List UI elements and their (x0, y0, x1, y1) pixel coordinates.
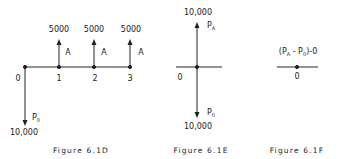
outflow-label-sub: 0 (37, 117, 40, 123)
eq-part: )-0 (306, 47, 317, 56)
outflow-label: P0 (32, 114, 40, 124)
inflow-label: A (65, 49, 70, 57)
eq-part: - P (290, 47, 303, 56)
period-label: 1 (56, 75, 61, 83)
figure-6-1e-diagram (176, 25, 222, 115)
figure-caption: Figure 6.1F (270, 147, 325, 155)
figure-6-1d-diagram (23, 42, 131, 123)
figure-6-1f-diagram (277, 65, 318, 68)
inflow-amount: 10,000 (184, 9, 212, 17)
outflow-label-sub: 0 (212, 112, 215, 118)
figure-caption: Figure 6.1E (173, 147, 228, 155)
figure-caption: Figure 6.1D (53, 147, 109, 155)
inflow-label-sub: A (212, 25, 215, 31)
outflow-amount: 10,000 (10, 129, 38, 137)
inflow-amount: 5000 (121, 26, 141, 34)
outflow-label: P0 (207, 109, 215, 119)
inflow-label: A (101, 49, 106, 57)
inflow-label: A (138, 49, 143, 57)
period-label: 2 (92, 75, 97, 83)
inflow-amount: 5000 (49, 26, 69, 34)
outflow-amount: 10,000 (184, 123, 212, 131)
origin-label: 0 (294, 73, 299, 81)
origin-dot (295, 65, 298, 68)
equation-label: (PA - P0)-0 (279, 48, 317, 58)
period-label: 0 (15, 75, 20, 83)
cash-flow-diagrams (0, 0, 342, 159)
eq-part: (P (279, 47, 287, 56)
origin-label: 0 (177, 74, 182, 82)
period-label: 3 (127, 75, 132, 83)
inflow-amount: 5000 (84, 26, 104, 34)
inflow-label: PA (207, 22, 215, 32)
